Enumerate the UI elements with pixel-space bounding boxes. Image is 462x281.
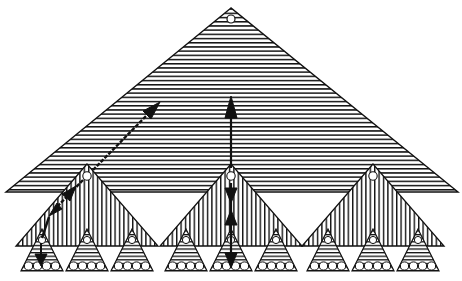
leaf-node-circle bbox=[409, 262, 417, 270]
leaf-node-circle bbox=[276, 262, 284, 270]
diagram-canvas bbox=[0, 0, 462, 281]
leaf-node-circle bbox=[168, 262, 176, 270]
leaf-node-circle bbox=[177, 262, 185, 270]
leaf-node-circle bbox=[87, 262, 95, 270]
leaf-node-circle bbox=[285, 262, 293, 270]
leaf-node-circle bbox=[373, 262, 381, 270]
node-circle bbox=[369, 236, 376, 243]
leaf-node-circle bbox=[132, 262, 140, 270]
leaf-node-circle bbox=[382, 262, 390, 270]
leaf-node-circle bbox=[319, 262, 327, 270]
node-circle bbox=[83, 172, 91, 180]
leaf-node-circle bbox=[364, 262, 372, 270]
node-circle bbox=[272, 236, 279, 243]
root-node-circle bbox=[227, 15, 235, 23]
node-circle bbox=[128, 236, 135, 243]
leaf-node-circle bbox=[267, 262, 275, 270]
leaf-node-circle bbox=[51, 262, 59, 270]
leaf-node-circle bbox=[310, 262, 318, 270]
node-circle bbox=[227, 172, 235, 180]
leaf-node-circle bbox=[355, 262, 363, 270]
leaf-node-circle bbox=[427, 262, 435, 270]
node-circle bbox=[182, 236, 189, 243]
node-circle bbox=[369, 172, 377, 180]
leaf-node-circle bbox=[418, 262, 426, 270]
leaf-node-circle bbox=[186, 262, 194, 270]
leaf-node-circle bbox=[328, 262, 336, 270]
leaf-node-circle bbox=[96, 262, 104, 270]
leaf-node-circle bbox=[258, 262, 266, 270]
node-circle bbox=[414, 236, 421, 243]
leaf-node-circle bbox=[114, 262, 122, 270]
leaf-node-circle bbox=[123, 262, 131, 270]
leaf-node-circle bbox=[24, 262, 32, 270]
leaf-node-circle bbox=[141, 262, 149, 270]
leaf-node-circle bbox=[42, 262, 50, 270]
hierarchy-diagram bbox=[0, 0, 462, 281]
node-circle bbox=[324, 236, 331, 243]
leaf-node-circle bbox=[195, 262, 203, 270]
leaf-node-circle bbox=[240, 262, 248, 270]
leaf-node-circle bbox=[69, 262, 77, 270]
leaf-node-circle bbox=[213, 262, 221, 270]
leaf-node-circle bbox=[337, 262, 345, 270]
leaf-node-circle bbox=[78, 262, 86, 270]
leaf-node-circle bbox=[400, 262, 408, 270]
node-circle bbox=[83, 236, 90, 243]
